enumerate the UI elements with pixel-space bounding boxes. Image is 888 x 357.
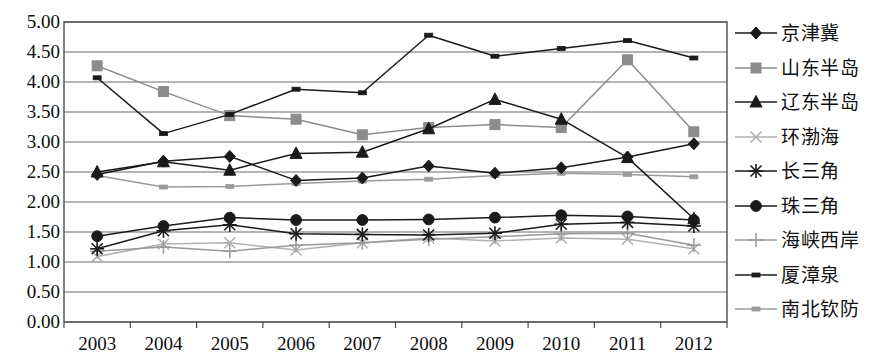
legend-item-label: 环渤海: [781, 124, 840, 150]
x-tick-label: 2009: [463, 333, 527, 355]
marker-dash: [93, 76, 101, 80]
marker-star: [355, 227, 369, 241]
x-tick-label: 2010: [529, 333, 593, 355]
marker-circle: [556, 210, 567, 221]
legend-sample-glyph: [735, 164, 777, 178]
marker-circle: [490, 212, 501, 223]
marker-star: [289, 227, 303, 241]
marker-square: [357, 130, 367, 140]
marker-circle: [357, 215, 368, 226]
x-tick-label: 2003: [65, 333, 129, 355]
x-tick-label: 2012: [662, 333, 726, 355]
series-1: [92, 55, 699, 140]
legend-marker-icon: [733, 262, 779, 288]
legend-item-2[interactable]: 山东半岛: [733, 53, 859, 83]
legend-item-6[interactable]: 珠三角: [733, 191, 840, 221]
legend-item-label: 山东半岛: [781, 55, 859, 81]
legend-item-label: 珠三角: [781, 193, 840, 219]
marker-dash: [226, 184, 234, 188]
chart-legend: 京津冀山东半岛辽东半岛环渤海长三角珠三角海峡西岸厦漳泉南北钦防: [733, 18, 888, 330]
marker-square: [158, 87, 168, 97]
marker-dash: [292, 87, 300, 91]
marker-dash: [425, 33, 433, 37]
marker-dash: [690, 175, 698, 179]
legend-item-3[interactable]: 辽东半岛: [733, 87, 859, 117]
marker-dash: [491, 54, 499, 58]
legend-item-label: 辽东半岛: [781, 89, 859, 115]
x-tick-label: 2004: [131, 333, 195, 355]
marker-dash: [624, 39, 632, 43]
x-axis-tick-labels: 2003200420052006200720082009201020112012: [0, 331, 888, 357]
marker-dash: [690, 56, 698, 60]
marker-dash: [159, 132, 167, 136]
x-tick-marks: [64, 322, 727, 328]
x-tick-label: 2007: [330, 333, 394, 355]
legend-item-8[interactable]: 厦漳泉: [733, 260, 840, 290]
series-line: [97, 60, 694, 135]
marker-star: [422, 228, 436, 242]
marker-plus: [687, 238, 701, 252]
legend-item-label: 长三角: [781, 158, 840, 184]
marker-dash: [226, 112, 234, 116]
series-7: [93, 33, 698, 135]
series-line: [97, 233, 694, 251]
x-tick-label: 2005: [198, 333, 262, 355]
marker-diamond: [688, 138, 699, 150]
marker-diamond: [224, 150, 235, 162]
legend-sample-glyph: [735, 63, 777, 73]
legend-item-1[interactable]: 京津冀: [733, 18, 840, 48]
marker-star: [749, 164, 763, 178]
marker-dash: [752, 307, 760, 311]
x-tick-label: 2011: [596, 333, 660, 355]
marker-diamond: [751, 27, 762, 39]
marker-plus: [223, 244, 237, 258]
legend-sample-glyph: [735, 27, 777, 39]
line-chart: 5.004.504.003.503.002.502.001.501.000.50…: [0, 0, 888, 357]
series-line: [97, 144, 694, 181]
legend-item-4[interactable]: 环渤海: [733, 122, 840, 152]
legend-marker-icon: [733, 20, 779, 46]
marker-circle: [622, 211, 633, 222]
legend-marker-icon: [733, 193, 779, 219]
marker-dash: [425, 177, 433, 181]
marker-plus: [749, 233, 763, 247]
marker-circle: [92, 231, 103, 242]
marker-dash: [358, 91, 366, 95]
legend-item-label: 南北钦防: [781, 296, 859, 322]
marker-star: [488, 226, 502, 240]
marker-plus: [156, 240, 170, 254]
marker-diamond: [423, 160, 434, 172]
marker-square: [689, 127, 699, 137]
marker-dash: [159, 185, 167, 189]
legend-marker-icon: [733, 227, 779, 253]
legend-marker-icon: [733, 55, 779, 81]
legend-item-7[interactable]: 海峡西岸: [733, 225, 859, 255]
marker-star: [90, 242, 104, 256]
marker-square: [751, 63, 761, 73]
legend-sample-glyph: [735, 233, 777, 247]
x-tick-label: 2006: [264, 333, 328, 355]
legend-item-5[interactable]: 长三角: [733, 156, 840, 186]
legend-item-label: 厦漳泉: [781, 262, 840, 288]
legend-item-label: 海峡西岸: [781, 227, 859, 253]
marker-square: [291, 114, 301, 124]
series-8: [93, 171, 698, 189]
marker-dash: [557, 46, 565, 50]
marker-dash: [624, 172, 632, 176]
marker-square: [490, 120, 500, 130]
x-tick-label: 2008: [397, 333, 461, 355]
series-0: [92, 138, 700, 187]
marker-triangle: [489, 93, 501, 105]
legend-marker-icon: [733, 124, 779, 150]
legend-sample-glyph: [735, 273, 777, 277]
legend-item-label: 京津冀: [781, 20, 840, 46]
series-line: [97, 173, 694, 187]
series-6: [90, 226, 701, 258]
legend-item-9[interactable]: 南北钦防: [733, 294, 859, 324]
marker-circle: [158, 221, 169, 232]
series-5: [92, 210, 699, 242]
marker-circle: [751, 200, 762, 211]
legend-marker-icon: [733, 296, 779, 322]
marker-circle: [224, 212, 235, 223]
legend-sample-glyph: [735, 131, 777, 142]
